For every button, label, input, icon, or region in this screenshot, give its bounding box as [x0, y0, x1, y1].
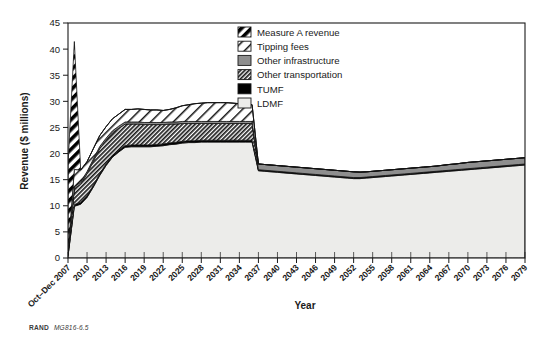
legend-label: LDMF [257, 98, 283, 109]
legend-swatch [238, 84, 251, 94]
y-tick-label: 10 [49, 200, 60, 211]
y-tick-label: 25 [49, 122, 60, 133]
legend-swatch [238, 27, 251, 37]
legend-item: Tipping fees [238, 41, 309, 52]
y-tick-label: 0 [55, 252, 60, 263]
x-axis-title: Year [294, 300, 315, 311]
y-tick-label: 40 [49, 44, 60, 55]
source-note-bold: RAND [29, 324, 49, 331]
source-note: RAND MG816-6.5 [29, 324, 89, 331]
legend-swatch [238, 70, 251, 80]
y-tick-label: 5 [55, 226, 60, 237]
source-note-italic: MG816-6.5 [54, 324, 89, 331]
figure-container: 051015202530354045 Oct–Dec 2007201020132… [0, 0, 556, 348]
legend-label: Other transportation [257, 69, 342, 80]
legend-label: Tipping fees [257, 41, 309, 52]
legend-swatch [238, 41, 251, 51]
legend-label: Measure A revenue [257, 27, 340, 38]
y-axis-title: Revenue ($ millions) [19, 92, 30, 189]
legend-swatch [238, 55, 251, 65]
y-tick-label: 30 [49, 96, 60, 107]
y-tick-label: 15 [49, 174, 60, 185]
legend-swatch [238, 98, 251, 108]
y-tick-label: 20 [49, 148, 60, 159]
legend-item: LDMF [238, 98, 283, 109]
legend-label: TUMF [257, 84, 284, 95]
y-tick-label: 35 [49, 70, 60, 81]
y-tick-label: 45 [49, 17, 60, 28]
legend-item: TUMF [238, 84, 284, 95]
legend-label: Other infrastructure [257, 55, 340, 66]
revenue-stacked-area-chart: 051015202530354045 Oct–Dec 2007201020132… [0, 0, 556, 348]
